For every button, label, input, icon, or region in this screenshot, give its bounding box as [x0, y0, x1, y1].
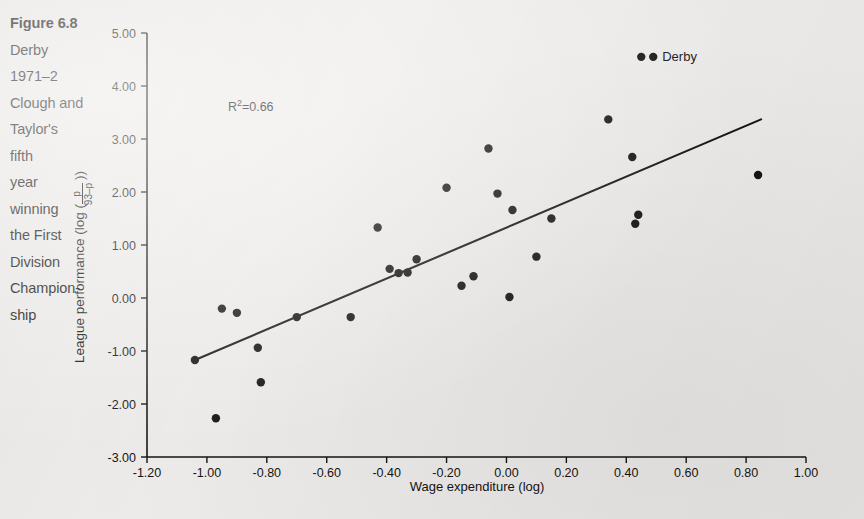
data-point — [373, 223, 381, 231]
data-point — [634, 211, 642, 219]
data-point — [532, 252, 540, 260]
x-tick-label: 0.80 — [734, 466, 758, 480]
data-point — [637, 53, 645, 61]
data-point — [628, 153, 636, 161]
caption-line-8: the First — [10, 222, 106, 249]
caption-line-11: ship — [10, 302, 106, 329]
data-point — [547, 214, 555, 222]
figure-caption: Figure 6.8 Derby 1971–2 Clough and Taylo… — [10, 10, 106, 328]
data-point — [385, 265, 393, 273]
r-squared-base: R — [228, 100, 237, 114]
data-point — [212, 414, 220, 422]
x-tick-label: -1.20 — [133, 466, 162, 480]
data-point — [293, 313, 301, 321]
data-point — [484, 144, 492, 152]
y-tick-label: 2.00 — [112, 186, 136, 200]
data-point — [469, 272, 477, 280]
x-tick-label: 0.20 — [554, 466, 578, 480]
caption-line-4: Taylor's — [10, 116, 106, 143]
y-tick-label: 4.00 — [112, 80, 136, 94]
data-point — [508, 206, 516, 214]
y-tick-label: 5.00 — [112, 27, 136, 41]
regression-line — [195, 119, 761, 360]
caption-line-5: fifth — [10, 143, 106, 170]
y-tick-label: -3.00 — [108, 451, 137, 465]
caption-line-6: year — [10, 169, 106, 196]
data-point — [442, 184, 450, 192]
y-tick-label: 3.00 — [112, 133, 136, 147]
data-point — [631, 220, 639, 228]
chart-svg: -3.00-2.00-1.000.001.002.003.004.005.00 … — [0, 0, 864, 519]
data-point — [505, 293, 513, 301]
x-axis-ticks: -1.20-1.00-0.80-0.60-0.40-0.200.000.200.… — [133, 457, 818, 480]
x-tick-label: 0.60 — [674, 466, 698, 480]
data-point — [218, 304, 226, 312]
data-point — [346, 313, 354, 321]
data-point — [457, 282, 465, 290]
x-tick-label: -0.60 — [312, 466, 341, 480]
data-point — [604, 115, 612, 123]
y-tick-label: 1.00 — [112, 239, 136, 253]
data-point — [191, 356, 199, 364]
caption-line-7: winning — [10, 196, 106, 223]
data-point — [254, 344, 262, 352]
x-tick-label: -0.40 — [372, 466, 401, 480]
data-point — [412, 255, 420, 263]
x-tick-label: 0.00 — [494, 466, 518, 480]
caption-line-1: Derby — [10, 37, 106, 64]
y-tick-label: -1.00 — [108, 345, 137, 359]
r-squared-value: =0.66 — [242, 100, 274, 114]
y-tick-label: 0.00 — [112, 292, 136, 306]
x-tick-label: -0.20 — [432, 466, 461, 480]
x-tick-label: 1.00 — [794, 466, 818, 480]
y-tick-label: -2.00 — [108, 398, 137, 412]
data-point — [233, 309, 241, 317]
caption-line-0: Figure 6.8 — [10, 10, 106, 37]
derby-label: Derby — [662, 49, 697, 64]
caption-line-9: Division — [10, 249, 106, 276]
data-point — [493, 189, 501, 197]
figure-page: Figure 6.8 Derby 1971–2 Clough and Taylo… — [0, 0, 864, 519]
data-point — [394, 269, 402, 277]
data-point — [754, 171, 762, 179]
r-squared-annotation: R2=0.66 — [228, 98, 274, 114]
x-tick-label: -1.00 — [193, 466, 222, 480]
caption-line-3: Clough and — [10, 90, 106, 117]
x-tick-label: 0.40 — [614, 466, 638, 480]
data-point — [403, 268, 411, 276]
x-tick-label: -0.80 — [253, 466, 282, 480]
derby-point-marker — [649, 53, 657, 61]
caption-line-2: 1971–2 — [10, 63, 106, 90]
x-axis-title: Wage expenditure (log) — [410, 479, 545, 494]
data-points — [191, 53, 763, 423]
y-axis-ticks: -3.00-2.00-1.000.001.002.003.004.005.00 — [108, 27, 148, 465]
caption-line-10: Champion- — [10, 275, 106, 302]
data-point — [257, 378, 265, 386]
scatter-chart: -3.00-2.00-1.000.001.002.003.004.005.00 … — [0, 0, 864, 519]
